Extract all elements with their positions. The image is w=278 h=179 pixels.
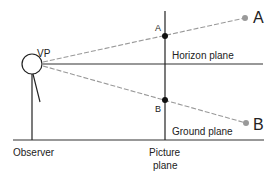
point-a-endpoint bbox=[242, 15, 248, 21]
point-b-endpoint bbox=[243, 120, 249, 126]
picture-plane-label-line2: plane bbox=[153, 160, 178, 171]
point-a-far-label: A bbox=[253, 9, 264, 26]
point-b-projection-dot bbox=[162, 97, 168, 103]
point-a-proj-label: A bbox=[155, 23, 161, 33]
sight-line-b bbox=[43, 66, 246, 123]
picture-plane-label-line1: Picture bbox=[149, 147, 181, 158]
point-b-proj-label: B bbox=[155, 104, 161, 114]
point-b-far-label: B bbox=[253, 116, 264, 133]
vp-label: VP bbox=[37, 48, 51, 59]
observer-label: Observer bbox=[13, 147, 55, 158]
point-a-projection-dot bbox=[162, 33, 168, 39]
observer-leg bbox=[33, 74, 40, 102]
horizon-plane-label: Horizon plane bbox=[172, 50, 234, 61]
perspective-diagram: VP A A B B Horizon plane Ground plane Ob… bbox=[0, 0, 278, 179]
ground-plane-label: Ground plane bbox=[172, 126, 233, 137]
